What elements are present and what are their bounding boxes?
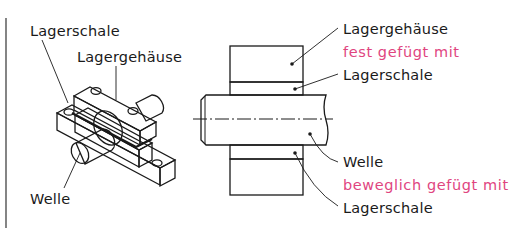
isometric-bearing-view xyxy=(57,87,175,186)
bearing-diagram: Lagerschale Lagergehäuse Welle Lagergehä… xyxy=(0,0,522,230)
label-fest-gefuegt-mit: fest gefügt mit xyxy=(343,44,460,60)
label-lagerschale-iso: Lagerschale xyxy=(30,23,120,39)
label-lagergehaeuse-iso: Lagergehäuse xyxy=(77,49,182,65)
label-lagergehaeuse: Lagergehäuse xyxy=(343,21,448,37)
label-welle-iso: Welle xyxy=(30,191,70,207)
label-welle: Welle xyxy=(343,154,383,170)
section-bearing-view xyxy=(193,46,333,195)
label-lagerschale-bottom: Lagerschale xyxy=(343,200,433,216)
label-beweglich-gefuegt-mit: beweglich gefügt mit xyxy=(343,177,509,193)
label-lagerschale-top: Lagerschale xyxy=(343,67,433,83)
